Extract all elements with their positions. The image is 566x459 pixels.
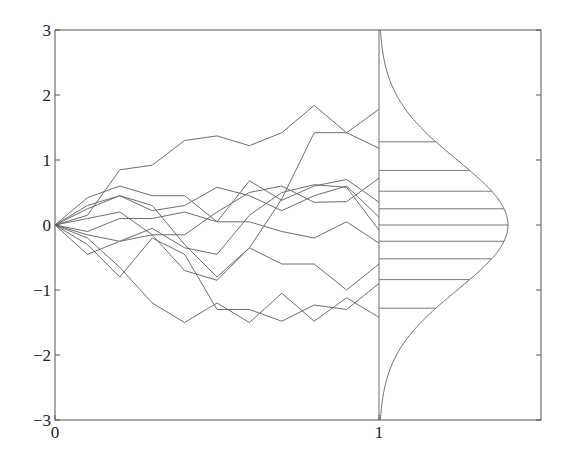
random-walk-8	[55, 225, 379, 290]
random-walk-chart: 3210−1−2−3 01	[0, 0, 566, 459]
y-tick-label: −1	[33, 281, 51, 300]
x-axis: 01	[51, 415, 384, 442]
y-tick-label: −2	[33, 346, 51, 365]
y-tick-label: −3	[33, 411, 51, 430]
random-walk-5	[55, 178, 379, 235]
x-tick-label: 0	[51, 423, 60, 442]
random-walk-9	[55, 225, 379, 321]
random-walk-paths	[55, 105, 379, 322]
random-walk-7	[55, 185, 379, 255]
random-walk-1	[55, 105, 379, 225]
x-tick-label: 1	[375, 423, 384, 442]
y-tick-label: 3	[43, 21, 52, 40]
y-tick-label: 0	[43, 216, 52, 235]
random-walk-10	[55, 225, 379, 323]
quantile-lines	[379, 142, 508, 308]
y-tick-label: 2	[43, 86, 52, 105]
y-tick-label: 1	[43, 151, 52, 170]
